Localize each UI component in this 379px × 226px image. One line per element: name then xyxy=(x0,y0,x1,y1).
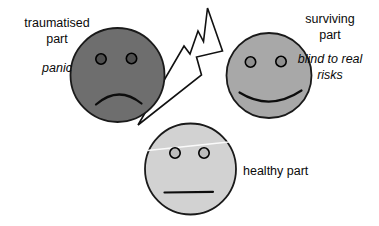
face-healthy-neutral-mouth xyxy=(165,192,214,193)
face-healthy-left-eye-icon xyxy=(170,148,180,158)
label-healthy-part: healthy part xyxy=(243,164,308,180)
annotation-blind-to-real-risks: blind to real risks xyxy=(297,52,363,83)
label-traumatised-part: traumatised part xyxy=(21,16,93,47)
face-healthy-head xyxy=(145,124,236,215)
face-traumatised-right-eye-icon xyxy=(126,53,136,63)
face-traumatised-left-eye-icon xyxy=(96,54,106,64)
face-healthy xyxy=(145,124,236,215)
face-surviving-right-eye-icon xyxy=(276,56,286,66)
face-healthy-right-eye-icon xyxy=(199,148,209,158)
label-surviving-part: surviving part xyxy=(300,12,360,43)
annotation-panic: panic xyxy=(21,61,93,77)
face-surviving-left-eye-icon xyxy=(245,57,255,67)
